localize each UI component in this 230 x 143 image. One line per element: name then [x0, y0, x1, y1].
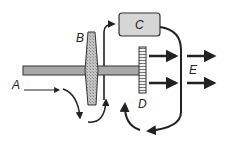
label-a: A [11, 78, 20, 92]
feedback-line-from-c [148, 27, 181, 131]
disk-d [139, 47, 146, 93]
feedback-line-to-c [104, 24, 114, 100]
diagram-canvas: A B C D E [0, 0, 230, 143]
label-d: D [138, 97, 147, 111]
label-c: C [135, 18, 144, 32]
label-b: B [76, 31, 84, 45]
disk-b [85, 32, 98, 105]
label-e: E [189, 63, 198, 77]
shaft [23, 66, 140, 75]
input-curve-down [63, 89, 80, 118]
